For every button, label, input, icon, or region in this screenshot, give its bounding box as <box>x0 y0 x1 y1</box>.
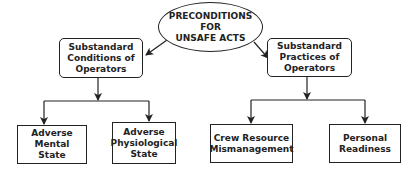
leaf-label: Personal Readiness <box>339 133 391 155</box>
root-node-preconditions: PRECONDITIONS FOR UNSAFE ACTS <box>158 2 263 52</box>
leaf-adverse-mental-state: Adverse Mental State <box>17 125 87 164</box>
category-substandard-conditions: Substandard Conditions of Operators <box>59 38 143 78</box>
category-label: Substandard Conditions of Operators <box>67 42 134 75</box>
root-label: PRECONDITIONS FOR UNSAFE ACTS <box>169 11 252 44</box>
leaf-label: Adverse Physiological State <box>111 127 178 160</box>
category-label: Substandard Practices of Operators <box>277 41 342 74</box>
category-substandard-practices: Substandard Practices of Operators <box>267 38 352 77</box>
leaf-adverse-physiological-state: Adverse Physiological State <box>112 122 176 164</box>
leaf-crew-resource-mismanagement: Crew Resource Mismanagement <box>210 124 293 163</box>
leaf-label: Crew Resource Mismanagement <box>209 133 293 155</box>
leaf-label: Adverse Mental State <box>18 128 86 161</box>
leaf-personal-readiness: Personal Readiness <box>329 124 401 163</box>
arrow-root-to-conditions <box>146 40 167 55</box>
arrow-root-to-practices <box>254 42 268 58</box>
